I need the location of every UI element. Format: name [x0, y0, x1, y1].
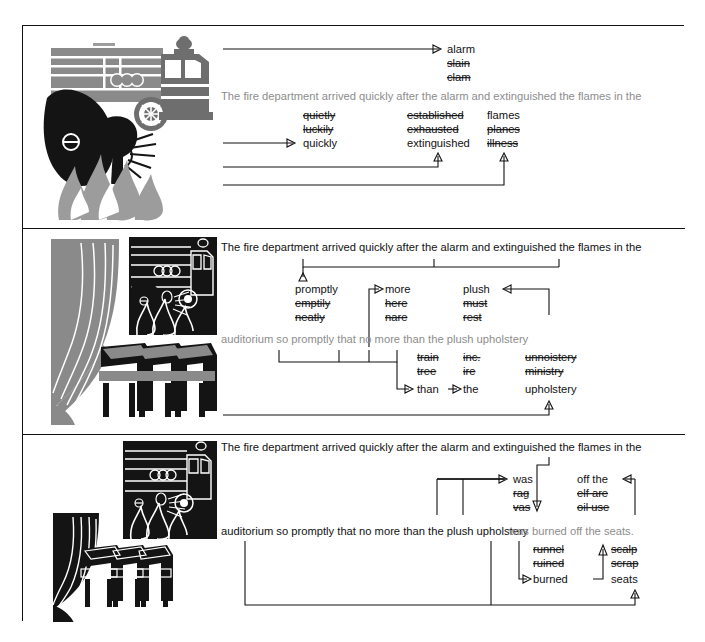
- alt-promptly-0: promptly: [295, 283, 338, 295]
- alt-flames-1: planes: [487, 123, 520, 135]
- alt-promptly-1: emptily: [295, 297, 331, 309]
- alt-upholstery-0: unnoistery: [525, 351, 577, 363]
- figure-root: alarm slain clam The fire department arr…: [0, 0, 705, 642]
- alt-plush-1: must: [463, 297, 488, 309]
- alt-burned-1: ruined: [533, 557, 564, 569]
- panel-3-illustration: [41, 441, 219, 622]
- alt-the-1: ire: [463, 365, 475, 377]
- panel-1: alarm slain clam The fire department arr…: [23, 26, 685, 229]
- connector-to-alarm: [223, 45, 441, 53]
- connector-to-was: [437, 479, 505, 515]
- connector-sentence-to-burned: [533, 457, 549, 511]
- connector-to-upholstery: [223, 401, 553, 415]
- connector-arrow-was: [437, 475, 507, 483]
- connector-to-off-the: [623, 475, 635, 515]
- panel-3-diagram: The fire department arrived quickly afte…: [219, 435, 685, 622]
- alt-was-2: vas: [513, 501, 531, 513]
- fire-truck-inset-icon: [123, 441, 217, 539]
- alt-plush-2: rest: [463, 311, 483, 323]
- panel-2-diagram: The fire department arrived quickly afte…: [219, 229, 685, 434]
- alt-flames-2: illness: [487, 137, 518, 149]
- panel-3-sentence-tail: was burned off the seats.: [508, 525, 634, 537]
- connector-to-flames: [223, 153, 508, 185]
- fire-truck-inset-icon: [129, 237, 217, 335]
- panel-3-sentence-head: auditorium so promptly that no more than…: [221, 525, 529, 537]
- figure-outer-frame: alarm slain clam The fire department arr…: [22, 25, 684, 621]
- alt-seats-1: scrap: [611, 557, 638, 569]
- panel-3-sentence-line-1: The fire department arrived quickly afte…: [221, 441, 641, 453]
- alt-was-1: rag: [513, 487, 529, 499]
- alt-alarm-2: clam: [447, 71, 471, 83]
- alt-than-0: train: [417, 351, 439, 363]
- alt-burned-0: runnel: [533, 543, 564, 555]
- alt-alarm-1: slain: [447, 57, 470, 69]
- alt-than-1: tree: [417, 365, 436, 377]
- connector-comb-panel-3: [245, 541, 639, 605]
- alt-extinguished-2: extinguished: [407, 137, 470, 149]
- alt-quickly-0: quietly: [303, 109, 336, 121]
- panel-1-sentence: The fire department arrived quickly afte…: [221, 90, 641, 102]
- alt-extinguished-0: established: [407, 109, 464, 121]
- alt-more-0: more: [385, 283, 411, 295]
- connector-than-to-the: [448, 385, 461, 393]
- connector-tree-panel-2: [299, 259, 559, 281]
- panel-2: The fire department arrived quickly afte…: [23, 229, 685, 435]
- burned-curtain-icon: [53, 513, 99, 622]
- panel-2-illustration: [41, 235, 219, 425]
- alt-upholstery-2: upholstery: [525, 383, 577, 395]
- alt-the-2: the: [463, 383, 479, 395]
- alt-offthe-1: elf are: [577, 487, 608, 499]
- panel-2-sentence-line-2: auditorium so promptly that no more than…: [221, 333, 529, 345]
- alt-than-2: than: [417, 383, 439, 395]
- alt-extinguished-1: exhausted: [407, 123, 459, 135]
- alt-more-1: here: [385, 297, 407, 309]
- alt-was-0: was: [512, 473, 533, 485]
- connector-to-plush: [503, 285, 549, 315]
- alt-plush-0: plush: [463, 283, 490, 295]
- alt-offthe-2: oil use: [577, 501, 609, 513]
- alt-promptly-2: neatly: [295, 311, 325, 323]
- alt-burned-2: burned: [533, 573, 568, 585]
- panel-1-diagram: alarm slain clam The fire department arr…: [219, 26, 685, 228]
- alt-quickly-1: luckily: [303, 123, 334, 135]
- alt-more-2: nare: [385, 311, 407, 323]
- panel-2-sentence-line-1: The fire department arrived quickly afte…: [221, 241, 641, 253]
- alt-offthe-0: off the: [577, 473, 608, 485]
- connector-to-quickly: [223, 139, 295, 147]
- alt-quickly-2: quickly: [303, 137, 338, 149]
- alt-seats-2: seats: [611, 573, 638, 585]
- theater-seats-icon: [99, 343, 217, 417]
- panel-3: The fire department arrived quickly afte…: [23, 435, 685, 622]
- panel-1-illustration: [41, 32, 219, 222]
- alt-the-0: inc.: [463, 351, 480, 363]
- connector-to-extinguished: [223, 153, 442, 167]
- alt-seats-0: scalp: [611, 543, 637, 555]
- alt-flames-0: flames: [487, 109, 520, 121]
- alt-alarm-0: alarm: [447, 43, 475, 55]
- connector-comb-panel-2: [279, 350, 413, 393]
- burned-seats-icon: [81, 545, 173, 607]
- alt-upholstery-1: ministry: [525, 365, 564, 377]
